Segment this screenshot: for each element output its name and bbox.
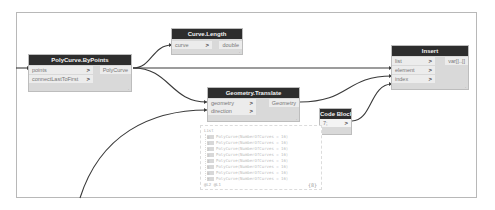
- port-label: direction: [211, 108, 232, 114]
- node-curve-length[interactable]: Curve.Length curve > double .: [171, 28, 243, 55]
- output-port-var[interactable]: var[]..[]: [445, 57, 468, 65]
- index-badge: 5: [207, 165, 214, 169]
- input-port-points[interactable]: points >: [29, 66, 93, 74]
- index-badge: 3: [207, 153, 214, 157]
- node-polycurve-bypoints[interactable]: PolyCurve.ByPoints points > connectLastT…: [28, 54, 132, 92]
- input-port-element[interactable]: element >: [392, 66, 435, 74]
- resize-handle-icon[interactable]: .: [239, 49, 240, 54]
- chevron-right-icon: >: [344, 119, 348, 127]
- port-label: geometry: [211, 100, 234, 106]
- chevron-right-icon: >: [86, 75, 90, 83]
- node-title[interactable]: Code Block: [320, 109, 351, 119]
- node-title[interactable]: Curve.Length: [172, 29, 242, 39]
- node-geometry-translate[interactable]: Geometry.Translate geometry > direction …: [207, 87, 300, 122]
- port-label: connectLastToFirst: [32, 76, 78, 82]
- port-label: list: [395, 58, 402, 64]
- input-port-geometry[interactable]: geometry >: [208, 99, 256, 107]
- chevron-right-icon: >: [205, 41, 209, 49]
- index-badge: 0: [207, 135, 214, 139]
- output-port-polycurve[interactable]: PolyCurve: [100, 66, 131, 74]
- resize-handle-icon[interactable]: .: [465, 84, 466, 89]
- chevron-right-icon: >: [86, 66, 90, 74]
- index-badge: 1: [207, 141, 214, 145]
- chevron-right-icon: >: [428, 75, 432, 83]
- port-label: index: [395, 76, 408, 82]
- node-title[interactable]: Insert: [392, 46, 468, 56]
- chevron-right-icon: >: [428, 57, 432, 65]
- port-label: points: [32, 67, 47, 73]
- output-port-double[interactable]: double: [219, 41, 242, 49]
- pin-icon[interactable]: {8}: [308, 182, 317, 188]
- output-port-geometry[interactable]: Geometry: [269, 99, 299, 107]
- resize-handle-icon[interactable]: .: [296, 116, 297, 121]
- preview-header: List: [204, 128, 214, 133]
- index-badge: 6: [207, 171, 214, 175]
- input-port-index[interactable]: index >: [392, 75, 435, 83]
- chevron-right-icon: >: [428, 66, 432, 74]
- port-label: curve: [175, 42, 188, 48]
- index-badge: 7: [207, 177, 214, 181]
- node-preview-bubble[interactable]: List 0PolyCurve(NumberOfCurves = 16) 1Po…: [200, 125, 322, 190]
- index-badge: 2: [207, 147, 214, 151]
- input-port-curve[interactable]: curve >: [172, 41, 212, 49]
- node-title[interactable]: Geometry.Translate: [208, 88, 299, 98]
- chevron-right-icon: >: [249, 107, 253, 115]
- input-port-connectlasttofirst[interactable]: connectLastToFirst >: [29, 75, 93, 83]
- code-text[interactable]: 7;: [323, 120, 328, 126]
- port-label: element: [395, 67, 415, 73]
- index-badge: 4: [207, 159, 214, 163]
- resize-handle-icon[interactable]: .: [128, 86, 129, 91]
- node-title[interactable]: PolyCurve.ByPoints: [29, 55, 131, 65]
- input-port-list[interactable]: list >: [392, 57, 435, 65]
- node-insert[interactable]: Insert list > element > index > var[]..[…: [391, 45, 469, 90]
- list-level-label: @L2 @L1: [204, 182, 221, 187]
- input-port-direction[interactable]: direction >: [208, 107, 256, 115]
- chevron-right-icon: >: [249, 99, 253, 107]
- code-block-input[interactable]: 7; >: [320, 119, 351, 127]
- node-code-block[interactable]: Code Block 7; >: [319, 108, 352, 135]
